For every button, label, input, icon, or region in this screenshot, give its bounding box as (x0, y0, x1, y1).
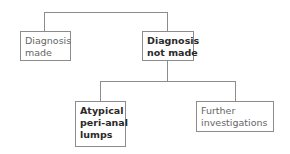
connector-down-from-diagnosis-not-made (167, 61, 168, 81)
node-label-line: not made (147, 47, 189, 59)
node-label-line: lumps (80, 129, 121, 141)
connector-to-diagnosis-made (44, 12, 45, 31)
node-label-line: Diagnosis (147, 35, 189, 47)
connector-to-atypical-lumps (100, 81, 101, 101)
node-label-line: peri-anal (80, 117, 121, 129)
node-atypical-peri-anal-lumps: Atypical peri-anal lumps (75, 101, 126, 147)
node-label-line: investigations (201, 117, 269, 129)
connector-top-horizontal (44, 12, 168, 13)
node-label-line: made (25, 47, 66, 59)
node-diagnosis-made: Diagnosis made (20, 31, 71, 61)
connector-mid-horizontal (100, 81, 236, 82)
node-further-investigations: Further investigations (196, 101, 274, 132)
connector-to-further-investigations (235, 81, 236, 101)
node-label-line: Atypical (80, 105, 121, 117)
node-label-line: Diagnosis (25, 35, 66, 47)
node-label-line: Further (201, 105, 269, 117)
node-diagnosis-not-made: Diagnosis not made (142, 31, 194, 61)
connector-to-diagnosis-not-made (167, 12, 168, 31)
